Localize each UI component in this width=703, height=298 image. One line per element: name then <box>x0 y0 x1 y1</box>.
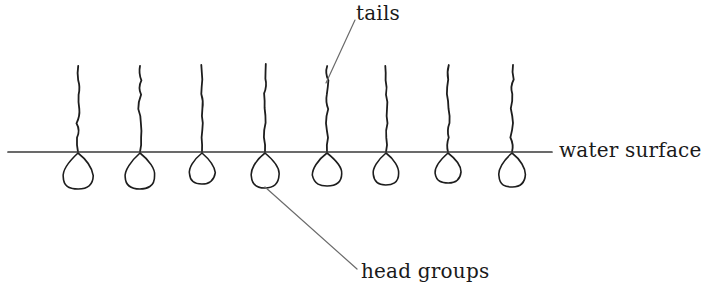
molecule-head-group <box>63 153 93 189</box>
molecule-head-group <box>251 153 279 188</box>
molecule-tail <box>264 64 266 152</box>
molecule-head-group <box>499 153 526 187</box>
molecule-tail <box>510 65 513 152</box>
molecule-tail <box>77 66 80 152</box>
molecule-tail <box>385 66 387 152</box>
molecule-head-group <box>189 153 215 184</box>
label-tails: tails <box>356 3 400 23</box>
molecule-head-group <box>312 153 341 186</box>
molecule-head-group <box>125 153 155 189</box>
label-head-groups: head groups <box>361 261 489 281</box>
tails-leader-line <box>326 20 355 83</box>
surfactant-diagram: tails water surface head groups <box>0 0 703 298</box>
molecule-tail <box>201 65 203 152</box>
molecule-tail <box>138 66 141 152</box>
molecules-group <box>63 64 525 189</box>
molecule-head-group <box>373 153 398 185</box>
molecule-tail <box>447 65 450 152</box>
head-groups-leader-line <box>265 187 357 269</box>
label-water-surface: water surface <box>559 140 702 160</box>
molecule-head-group <box>435 153 461 183</box>
